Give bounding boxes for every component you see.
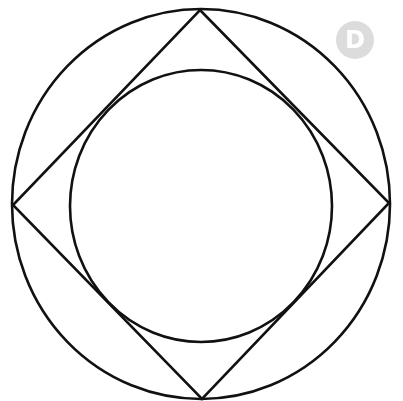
badge-label: D bbox=[345, 28, 365, 52]
outer-circle bbox=[12, 9, 390, 399]
answer-option-badge: D bbox=[336, 21, 374, 59]
geometry-diagram bbox=[0, 0, 403, 401]
inner-circle bbox=[70, 70, 332, 342]
